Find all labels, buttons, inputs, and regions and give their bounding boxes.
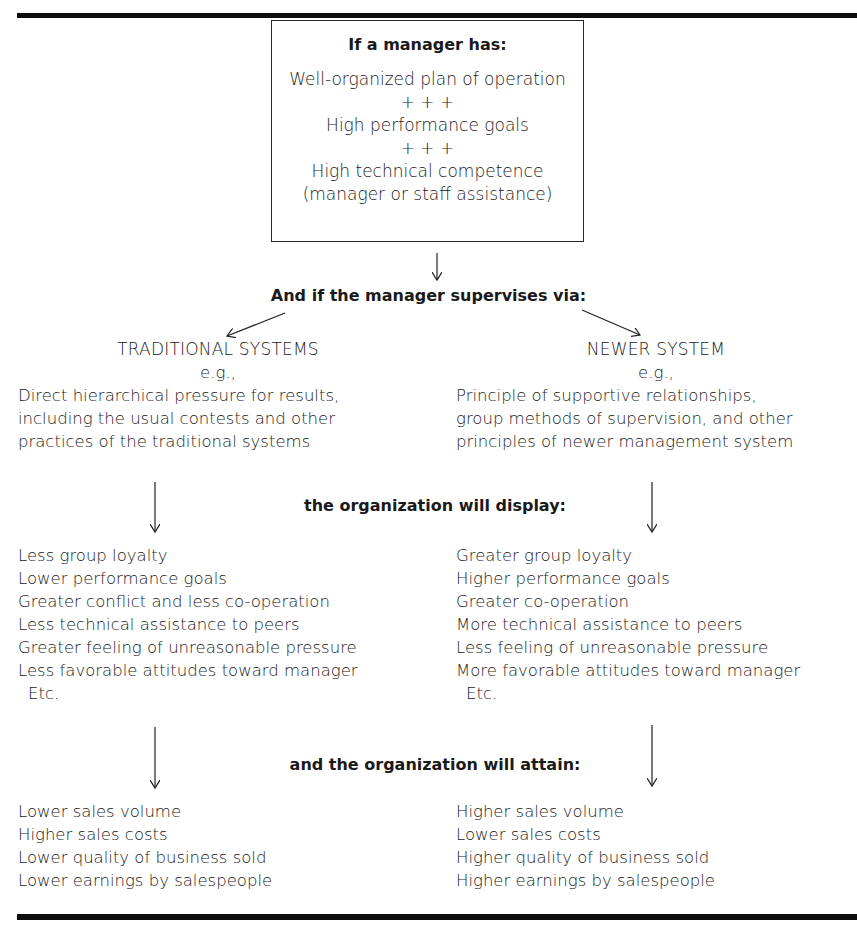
traditional-title: TRADITIONAL SYSTEMS	[18, 338, 418, 361]
supervision-heading: And if the manager supervises via:	[0, 286, 857, 305]
list-item: Higher sales costs	[18, 823, 272, 846]
newer-title: NEWER SYSTEM	[456, 338, 856, 361]
traditional-description-line: practices of the traditional systems	[18, 430, 418, 453]
traditional-display-list: Less group loyalty Lower performance goa…	[18, 544, 358, 705]
list-item: Less favorable attitudes toward manager	[18, 659, 358, 682]
newer-eg: e.g.,	[456, 361, 856, 384]
attain-heading: and the organization will attain:	[250, 755, 620, 774]
list-item: Greater group loyalty	[456, 544, 800, 567]
bottom-rule	[17, 914, 857, 920]
list-item-etc: Etc.	[456, 682, 800, 705]
newer-description-line: principles of newer management system	[456, 430, 856, 453]
traditional-eg: e.g.,	[18, 361, 418, 384]
flow-arrows	[0, 0, 857, 926]
list-item: Greater feeling of unreasonable pressure	[18, 636, 358, 659]
newer-attain-list: Higher sales volume Lower sales costs Hi…	[456, 800, 715, 892]
list-item: Lower sales costs	[456, 823, 715, 846]
list-item: Lower earnings by salespeople	[18, 869, 272, 892]
traditional-attain-list: Lower sales volume Higher sales costs Lo…	[18, 800, 272, 892]
list-item: Higher sales volume	[456, 800, 715, 823]
list-item: Greater co-operation	[456, 590, 800, 613]
list-item: More technical assistance to peers	[456, 613, 800, 636]
newer-description-line: Principle of supportive relationships,	[456, 384, 856, 407]
traditional-column: TRADITIONAL SYSTEMS e.g., Direct hierarc…	[18, 338, 418, 453]
list-item: Lower sales volume	[18, 800, 272, 823]
list-item: Higher quality of business sold	[456, 846, 715, 869]
display-heading: the organization will display:	[270, 496, 600, 515]
traditional-description-line: including the usual contests and other	[18, 407, 418, 430]
newer-column: NEWER SYSTEM e.g., Principle of supporti…	[456, 338, 856, 453]
list-item: Greater conflict and less co-operation	[18, 590, 358, 613]
newer-description-line: group methods of supervision, and other	[456, 407, 856, 430]
list-item: Lower performance goals	[18, 567, 358, 590]
list-item: Higher performance goals	[456, 567, 800, 590]
list-item-etc: Etc.	[18, 682, 358, 705]
newer-display-list: Greater group loyalty Higher performance…	[456, 544, 800, 705]
list-item: Less group loyalty	[18, 544, 358, 567]
list-item: Lower quality of business sold	[18, 846, 272, 869]
traditional-description-line: Direct hierarchical pressure for results…	[18, 384, 418, 407]
list-item: Less feeling of unreasonable pressure	[456, 636, 800, 659]
arrow-diagonal-left-icon	[227, 313, 285, 336]
list-item: More favorable attitudes toward manager	[456, 659, 800, 682]
list-item: Less technical assistance to peers	[18, 613, 358, 636]
arrow-diagonal-right-icon	[582, 310, 640, 335]
list-item: Higher earnings by salespeople	[456, 869, 715, 892]
